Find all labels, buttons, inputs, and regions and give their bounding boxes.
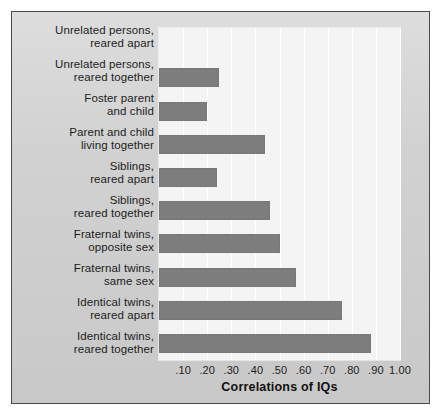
category-label-line1: Siblings, (110, 194, 154, 208)
category-label-line1: Foster parent (84, 92, 154, 106)
bar-row (159, 94, 400, 127)
category-label-line1: Fraternal twins, (74, 262, 154, 276)
category-label-line2: reared together (74, 343, 154, 357)
x-axis-tick-labels: .10.20.30.40.50.60.70.80.901.00 (159, 364, 400, 379)
bar (159, 135, 265, 154)
x-tick-label: .80 (344, 364, 360, 376)
category-label-line2: same sex (104, 275, 154, 289)
x-tick-label: .70 (320, 364, 336, 376)
category-label-line2: reared apart (90, 37, 154, 51)
category-label-line2: and child (107, 105, 154, 119)
bar (159, 268, 296, 287)
x-tick-label: .50 (272, 364, 288, 376)
category-label-line2: opposite sex (88, 241, 154, 255)
bar (159, 68, 219, 87)
bar-row (159, 260, 400, 293)
x-tick-label: .10 (175, 364, 191, 376)
chart-figure: Unrelated persons,reared apartUnrelated … (0, 0, 442, 416)
x-axis-title: Correlations of IQs (159, 380, 400, 394)
category-label: Parent and childliving together (26, 122, 160, 156)
category-label: Siblings,reared together (26, 190, 160, 224)
x-tick-label: .40 (248, 364, 264, 376)
x-tick-label: .90 (368, 364, 384, 376)
bar-row (159, 61, 400, 94)
category-label-line2: reared together (74, 207, 154, 221)
bar (159, 334, 371, 353)
category-label-line1: Identical twins, (77, 330, 154, 344)
category-label: Unrelated persons,reared together (26, 54, 160, 88)
x-tick-label: 1.00 (389, 364, 411, 376)
category-label-line1: Fraternal twins, (74, 228, 154, 242)
category-label: Foster parentand child (26, 88, 160, 122)
category-label-line2: reared apart (90, 173, 154, 187)
category-axis-labels: Unrelated persons,reared apartUnrelated … (26, 20, 160, 360)
bar-row (159, 128, 400, 161)
bar (159, 168, 217, 187)
bar (159, 201, 270, 220)
category-label-line2: living together (81, 139, 154, 153)
gridline (400, 28, 401, 360)
chart-panel: Unrelated persons,reared apartUnrelated … (11, 11, 430, 404)
category-label-line1: Identical twins, (77, 296, 154, 310)
category-label: Fraternal twins,opposite sex (26, 224, 160, 258)
bar (159, 234, 280, 253)
bar-row (159, 294, 400, 327)
category-label-line1: Unrelated persons, (55, 24, 154, 38)
bar-row (159, 28, 400, 61)
bar-row (159, 227, 400, 260)
category-label: Identical twins,reared together (26, 326, 160, 360)
bar-series (159, 28, 400, 360)
plot-area (159, 28, 400, 360)
bar (159, 102, 207, 121)
bar (159, 301, 342, 320)
category-label: Fraternal twins,same sex (26, 258, 160, 292)
category-label: Siblings,reared apart (26, 156, 160, 190)
bar-row (159, 161, 400, 194)
bar-row (159, 194, 400, 227)
x-tick-label: .60 (296, 364, 312, 376)
category-label-line2: reared together (74, 71, 154, 85)
bar-row (159, 327, 400, 360)
x-tick-label: .30 (224, 364, 240, 376)
category-label: Unrelated persons,reared apart (26, 20, 160, 54)
category-label-line1: Parent and child (69, 126, 154, 140)
category-label-line1: Siblings, (110, 160, 154, 174)
x-tick-label: .20 (199, 364, 215, 376)
category-label: Identical twins,reared apart (26, 292, 160, 326)
category-label-line2: reared apart (90, 309, 154, 323)
category-label-line1: Unrelated persons, (55, 58, 154, 72)
